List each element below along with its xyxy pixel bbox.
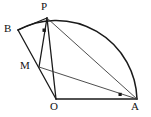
vertex-label-P: P — [41, 1, 47, 12]
segment-PB — [18, 18, 47, 30]
arc-BPA — [18, 21, 137, 99]
segment-PA — [47, 18, 137, 99]
vertex-label-A: A — [131, 101, 139, 112]
segment-PO — [47, 18, 56, 99]
right-angle-marker-a — [119, 93, 122, 96]
right-angle-marker-pm — [43, 29, 46, 32]
vertex-label-O: O — [50, 101, 58, 112]
geometry-figure: P B M O A — [0, 0, 151, 117]
vertex-label-B: B — [4, 23, 11, 34]
vertex-label-M: M — [20, 60, 30, 71]
segment-PM — [39, 18, 47, 67]
